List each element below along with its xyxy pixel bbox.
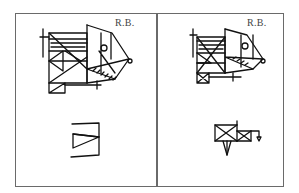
recall-fragment-right	[157, 13, 284, 187]
recall-fragment-left	[15, 13, 156, 187]
panel-left: R.B.	[15, 13, 156, 187]
panel-right: R.B.	[157, 13, 284, 187]
